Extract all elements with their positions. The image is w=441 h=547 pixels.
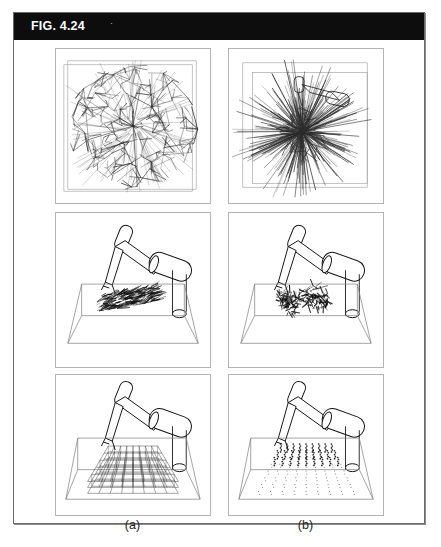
panel-robot-workspace-dot-lattice — [228, 374, 384, 516]
robot-grid-lattice-svg — [56, 375, 210, 515]
panel-radial-burst-tree-square — [228, 48, 384, 204]
grid-lattice-lines — [87, 446, 178, 493]
panel-robot-workspace-scatter-clump — [228, 212, 384, 368]
dot-lattice-points — [258, 443, 355, 495]
caption-column-a: (a) — [55, 518, 211, 532]
caption-column-b: (b) — [228, 518, 384, 532]
reachable-sample-swath — [96, 281, 166, 311]
figure-header-bar: FIG. 4.24 · — [14, 13, 424, 40]
panel-robot-workspace-grid-lattice — [55, 374, 211, 516]
random-tree-edges — [65, 60, 197, 192]
robot-dense-swath-svg — [56, 213, 210, 367]
robot-scatter-clump-svg — [229, 213, 383, 367]
robot-dot-lattice-svg — [229, 375, 383, 515]
caption-row: (a) (b) — [14, 518, 424, 532]
robot-arm — [274, 380, 367, 472]
radial-tree-edges — [232, 60, 371, 198]
figure-number-label: FIG. 4.24 — [31, 19, 85, 33]
panel-row-top — [14, 48, 424, 204]
panel-row-middle — [14, 212, 424, 368]
panel-robot-workspace-dense-swath — [55, 212, 211, 368]
panel-grid: (a) (b) — [14, 40, 424, 525]
dense-random-tree-svg — [56, 49, 210, 203]
header-artifact-mark: · — [110, 18, 113, 28]
figure-plate: FIG. 4.24 · — [13, 12, 425, 524]
panel-dense-random-tree-square — [55, 48, 211, 204]
radial-burst-tree-svg — [229, 49, 383, 203]
panel-row-bottom — [14, 374, 424, 516]
